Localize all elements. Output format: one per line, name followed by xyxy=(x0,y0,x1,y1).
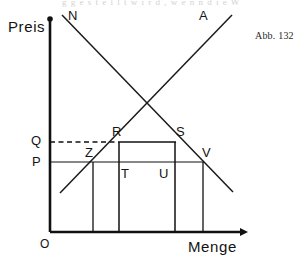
y-axis-title: Preis xyxy=(8,19,45,34)
point-label-v: V xyxy=(202,146,211,159)
curve-label-n: N xyxy=(68,9,78,22)
figure-page: g g e s t e l l t w i r d , w e n n d i … xyxy=(0,0,308,257)
y-axis-arrow-cap xyxy=(47,16,53,22)
point-label-u: U xyxy=(159,167,169,180)
origin-label: O xyxy=(40,238,49,250)
point-label-s: S xyxy=(176,125,185,138)
x-axis-arrow-head xyxy=(240,228,248,236)
point-label-r: R xyxy=(112,125,122,138)
price-level-label-q: Q xyxy=(31,134,41,147)
x-axis-title: Menge xyxy=(188,239,237,254)
price-level-label-p: P xyxy=(32,155,41,168)
point-label-z: Z xyxy=(85,146,93,159)
point-label-t: T xyxy=(121,167,129,180)
supply-curve-a xyxy=(60,15,232,193)
figure-caption: Abb. 132 xyxy=(255,31,294,41)
curve-label-a: A xyxy=(199,9,208,22)
